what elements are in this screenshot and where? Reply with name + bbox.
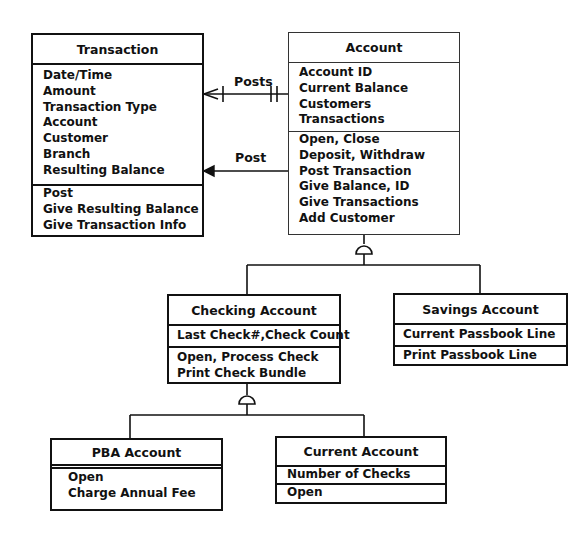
generalization-checking — [130, 383, 364, 438]
attribute: Date/Time — [43, 68, 202, 84]
class-account: Account Account ID Current Balance Custo… — [288, 32, 460, 235]
operation: Open, Close — [299, 132, 459, 148]
attribute: Number of Checks — [287, 467, 445, 483]
attribute: Customers — [299, 97, 459, 113]
operation: Give Transaction Info — [43, 218, 202, 234]
operation: Open, Process Check — [177, 350, 339, 366]
class-title: Current Account — [277, 438, 445, 467]
generalization-account — [247, 234, 480, 294]
operation: Give Transactions — [299, 195, 459, 211]
operation: Add Customer — [299, 211, 459, 227]
class-title: Transaction — [33, 35, 202, 65]
class-current-account: Current Account Number of Checks Open — [275, 436, 447, 504]
operations-section: Post Give Resulting Balance Give Transac… — [33, 186, 202, 233]
operation: Print Check Bundle — [177, 366, 339, 382]
operation: Deposit, Withdraw — [299, 148, 459, 164]
operations-section: Open Charge Annual Fee — [52, 469, 221, 502]
operations-section: Open, Close Deposit, Withdraw Post Trans… — [289, 132, 459, 227]
operation: Charge Annual Fee — [68, 486, 221, 502]
class-title: Account — [289, 33, 459, 63]
class-savings-account: Savings Account Current Passbook Line Pr… — [393, 293, 568, 366]
operation: Give Balance, ID — [299, 179, 459, 195]
attribute: Transactions — [299, 112, 459, 128]
post-message-arrow — [204, 166, 288, 176]
operation: Open — [287, 485, 445, 501]
operation: Post Transaction — [299, 164, 459, 180]
attributes-section: Date/Time Amount Transaction Type Accoun… — [33, 65, 202, 186]
operations-section: Open, Process Check Print Check Bundle — [169, 348, 339, 382]
attribute: Branch — [43, 147, 202, 163]
attribute: Current Passbook Line — [403, 327, 566, 343]
operation: Print Passbook Line — [403, 348, 566, 364]
attribute: Customer — [43, 131, 202, 147]
class-title: PBA Account — [52, 440, 221, 469]
attribute: Last Check#,Check Count — [177, 328, 339, 344]
operations-section: Open — [277, 485, 445, 501]
attributes-section: Account ID Current Balance Customers Tra… — [289, 63, 459, 132]
class-title: Savings Account — [395, 295, 566, 325]
operation: Open — [68, 470, 221, 486]
post-label: Post — [235, 150, 266, 165]
class-pba-account: PBA Account Open Charge Annual Fee — [50, 438, 223, 511]
attributes-section: Number of Checks — [277, 467, 445, 485]
attributes-section: Last Check#,Check Count — [169, 326, 339, 348]
operation: Post — [43, 186, 202, 202]
class-title: Checking Account — [169, 296, 339, 326]
attributes-section: Current Passbook Line — [395, 325, 566, 347]
class-checking-account: Checking Account Last Check#,Check Count… — [167, 294, 341, 384]
attribute: Account — [43, 115, 202, 131]
class-transaction: Transaction Date/Time Amount Transaction… — [31, 33, 204, 237]
operations-section: Print Passbook Line — [395, 347, 566, 364]
attribute: Resulting Balance — [43, 163, 202, 179]
operation: Give Resulting Balance — [43, 202, 202, 218]
attribute: Account ID — [299, 65, 459, 81]
attribute: Amount — [43, 84, 202, 100]
posts-label: Posts — [234, 74, 273, 89]
attribute: Transaction Type — [43, 100, 202, 116]
attribute: Current Balance — [299, 81, 459, 97]
